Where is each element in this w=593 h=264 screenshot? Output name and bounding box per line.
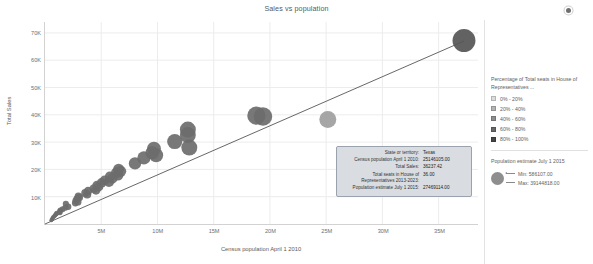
color-legend-title: Percentage of Total seats in House of Re… <box>491 76 591 92</box>
y-axis-title: Total Sales <box>6 97 12 125</box>
tooltip-row-value: 27469114.00 <box>423 185 467 191</box>
legend-item-label: 20% - 40% <box>500 106 525 112</box>
size-legend-max-row: Max: 39144818.00 <box>506 180 559 186</box>
tooltip-row-value: 25146105.00 <box>423 157 467 163</box>
tooltip-row: State or territory:Texas <box>341 150 467 156</box>
tooltip-row-label: Population estimate July 1 2015: <box>341 185 423 191</box>
legend-swatch-icon <box>491 116 496 121</box>
legend-item[interactable]: 60% - 80% <box>491 126 591 132</box>
legend-item-label: 60% - 80% <box>500 126 525 132</box>
y-tick-label: 20K <box>31 167 41 173</box>
y-tick-label: 70K <box>31 30 41 36</box>
data-point-tooltip: State or territory:TexasCensus populatio… <box>336 146 472 197</box>
legend-item-label: 0% - 20% <box>500 96 523 102</box>
x-tick-label: 15M <box>209 228 220 234</box>
x-tick-label: 35M <box>434 228 445 234</box>
tooltip-row: Census population April 1 2010:25146105.… <box>341 157 467 163</box>
y-tick-label: 30K <box>31 140 41 146</box>
legend-item-label: 80% - 100% <box>500 136 528 142</box>
tooltip-row-label: Total Sales: <box>341 164 423 170</box>
leader-line-arrow-icon <box>506 173 515 174</box>
color-legend-items: 0% - 20%20% - 40%40% - 60%60% - 80%80% -… <box>491 96 591 143</box>
legend-swatch-icon <box>491 96 496 101</box>
legend-swatch-icon <box>491 106 496 111</box>
legend-item[interactable]: 40% - 60% <box>491 116 591 122</box>
tooltip-row: Population estimate July 1 2015:27469114… <box>341 185 467 191</box>
tooltip-row-label: Total seats in House of Representatives … <box>341 172 423 184</box>
tooltip-row-label: State or territory: <box>341 150 423 156</box>
legend-item[interactable]: 80% - 100% <box>491 136 591 142</box>
size-legend-rows: Min: 586107.00 Max: 39144818.00 <box>491 170 591 194</box>
tooltip-row: Total seats in House of Representatives … <box>341 172 467 184</box>
tooltip-row-value: Texas <box>423 150 467 156</box>
x-tick-label: 20M <box>265 228 276 234</box>
size-legend-title: Population estimate July 1 2015 <box>491 158 591 166</box>
y-tick-label: 60K <box>31 57 41 63</box>
tooltip-row-value: 36.00 <box>423 172 467 178</box>
tooltip-row-label: Census population April 1 2010: <box>341 157 423 163</box>
x-tick-label: 10M <box>152 228 163 234</box>
size-legend-min-row: Min: 586107.00 <box>506 171 552 177</box>
more-options-icon[interactable] <box>566 8 571 13</box>
x-axis-title: Census population April 1 2010 <box>44 246 478 252</box>
legend-panel: Percentage of Total seats in House of Re… <box>484 20 593 264</box>
x-tick-label: 5M <box>97 228 105 234</box>
size-legend: Population estimate July 1 2015 Min: 586… <box>491 158 591 194</box>
sales-vs-population-visualization: Sales vs population Total Sales 10K20K30… <box>0 0 593 264</box>
legend-item-label: 40% - 60% <box>500 116 525 122</box>
color-legend: Percentage of Total seats in House of Re… <box>491 76 591 147</box>
legend-item[interactable]: 20% - 40% <box>491 106 591 112</box>
tooltip-row: Total Sales:36237.42 <box>341 164 467 170</box>
legend-swatch-icon <box>491 127 496 132</box>
size-legend-bubble <box>491 172 504 185</box>
size-legend-max-label: Max: 39144818.00 <box>518 180 559 186</box>
legend-swatch-icon <box>491 137 496 142</box>
legend-divider <box>491 150 588 151</box>
x-tick-label: 30M <box>378 228 389 234</box>
x-tick-label: 25M <box>321 228 332 234</box>
legend-item[interactable]: 0% - 20% <box>491 96 591 102</box>
y-tick-label: 10K <box>31 195 41 201</box>
page-title: Sales vs population <box>0 4 593 13</box>
chart-title-bar: Sales vs population <box>0 0 593 20</box>
y-tick-label: 40K <box>31 112 41 118</box>
tooltip-row-value: 36237.42 <box>423 164 467 170</box>
y-tick-label: 50K <box>31 85 41 91</box>
leader-line-icon <box>506 182 515 183</box>
size-legend-min-label: Min: 586107.00 <box>518 171 552 177</box>
